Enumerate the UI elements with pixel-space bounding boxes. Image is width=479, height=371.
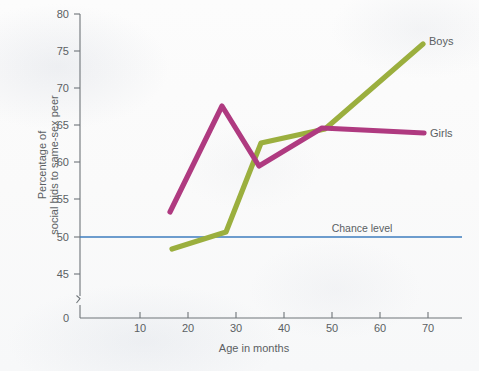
series-label-girls: Girls [430, 127, 453, 139]
y-axis-title-line-2: social bids to same-sex peer [48, 95, 60, 235]
x-tick-label-10: 10 [134, 322, 146, 334]
y-tick-label-0: 0 [63, 312, 69, 324]
y-tick-label-70: 70 [57, 82, 69, 94]
chart-page: 80 75 70 65 60 55 50 45 0 10 20 30 40 50… [0, 0, 479, 371]
x-tick-label-50: 50 [326, 322, 338, 334]
y-tick-label-45: 45 [57, 268, 69, 280]
line-chart: 80 75 70 65 60 55 50 45 0 10 20 30 40 50… [0, 0, 479, 371]
x-tick-label-30: 30 [230, 322, 242, 334]
series-girls: Girls [170, 106, 453, 212]
x-tick-label-40: 40 [278, 322, 290, 334]
x-tick-label-60: 60 [374, 322, 386, 334]
series-label-boys: Boys [429, 35, 454, 47]
chance-level-label: Chance level [332, 222, 393, 234]
x-tick-label-70: 70 [422, 322, 434, 334]
series-girls-line [170, 106, 424, 212]
series-boys-line [172, 44, 423, 249]
x-axis-title: Age in months [219, 342, 290, 354]
y-tick-label-80: 80 [57, 8, 69, 20]
y-axis-break-icon [77, 296, 81, 304]
y-tick-label-75: 75 [57, 45, 69, 57]
series-boys: Boys [172, 35, 454, 249]
y-axis-title: Percentage of social bids to same-sex pe… [36, 95, 60, 235]
x-axis: 10 20 30 40 50 60 70 [80, 312, 462, 334]
chance-level-reference: Chance level [80, 222, 462, 237]
y-axis: 80 75 70 65 60 55 50 45 0 [57, 8, 80, 324]
y-axis-title-line-1: Percentage of [36, 130, 48, 199]
x-tick-label-20: 20 [182, 322, 194, 334]
